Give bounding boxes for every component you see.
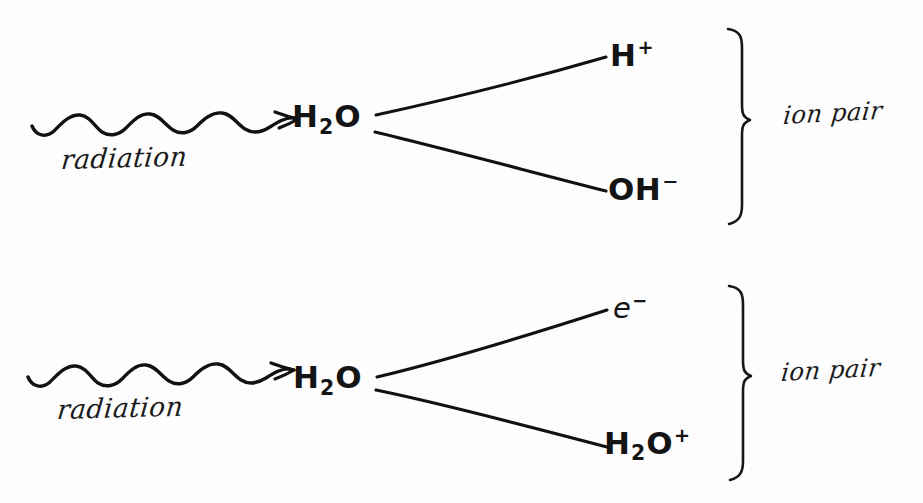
radiation-arrow-1 (32, 112, 298, 135)
electron-symbol: e (613, 291, 631, 325)
water-o-symbol: O (334, 98, 361, 134)
radiation-label-2: radiation (56, 393, 185, 423)
reactant-water-2: H2O (293, 362, 362, 398)
reaction-fork-1 (375, 57, 606, 191)
reaction-fork-2 (376, 310, 607, 447)
water-h-symbol: H (292, 98, 318, 134)
water-o-symbol: O (335, 359, 362, 395)
oh-symbol: OH (608, 171, 661, 207)
ion-pair-label-1: ion pair (782, 98, 884, 128)
product-oh-minus: OH− (608, 172, 679, 205)
h-symbol: H (610, 37, 636, 73)
radiation-label-1: radiation (60, 143, 189, 173)
product-h-plus: H+ (610, 38, 654, 71)
water-subscript: 2 (318, 115, 334, 139)
plus-charge-sign: + (636, 36, 654, 59)
water-subscript: 2 (630, 441, 646, 465)
ion-pair-label-2: ion pair (780, 355, 882, 385)
ink-stroke-layer (0, 0, 923, 503)
water-o-symbol: O (646, 425, 673, 461)
reactant-water-1: H2O (292, 101, 361, 137)
product-electron: e− (613, 292, 648, 323)
minus-charge-sign: − (661, 170, 679, 193)
ion-pair-brace-1 (728, 29, 750, 224)
plus-charge-sign: + (673, 424, 691, 447)
water-subscript: 2 (319, 376, 335, 400)
water-h-symbol: H (293, 359, 319, 395)
radiation-arrow-2 (28, 363, 294, 386)
product-h2o-plus: H2O+ (604, 426, 691, 464)
water-h-symbol: H (604, 425, 630, 461)
ion-pair-brace-2 (729, 286, 751, 480)
diagram-canvas: radiation H2O H+ OH− ion pair radiation … (0, 0, 923, 503)
paper-sheet: radiation H2O H+ OH− ion pair radiation … (0, 0, 923, 503)
minus-charge-sign: − (631, 290, 648, 311)
